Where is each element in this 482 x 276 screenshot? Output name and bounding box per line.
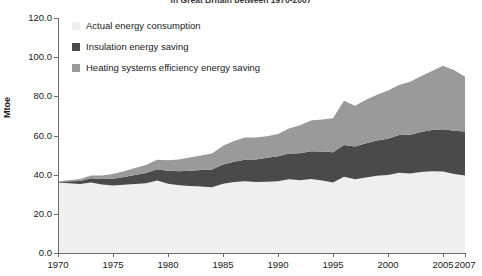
legend-item-1: Insulation energy saving [72, 41, 188, 52]
legend-label-2: Heating systems efficiency energy saving [86, 62, 260, 73]
legend-label-0: Actual energy consumption [86, 20, 201, 31]
legend-swatch-icon-0 [72, 22, 80, 30]
legend-label-1: Insulation energy saving [86, 41, 188, 52]
area-series-group [58, 66, 465, 253]
legend-swatch-icon-1 [72, 43, 80, 51]
legend-swatch-icon-2 [72, 64, 80, 72]
stacked-area-chart: in Great Britain between 1970-2007 Mtoe … [0, 0, 482, 276]
legend-item-2: Heating systems efficiency energy saving [72, 62, 260, 73]
legend-item-0: Actual energy consumption [72, 20, 201, 31]
